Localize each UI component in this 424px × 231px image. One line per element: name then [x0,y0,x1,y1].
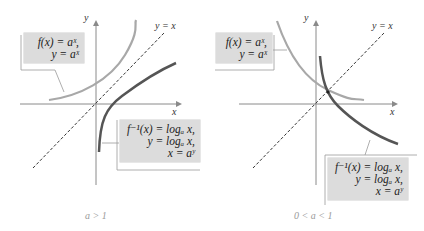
x-axis-label: x [172,106,176,117]
log-box-line-2: y = logₐ x, [333,173,403,185]
log-box-line-2: y = logₐ x, [125,135,195,147]
identity-line [253,33,384,168]
caption-a-greater-than-1: a > 1 [85,210,107,221]
exp-box-line-2: y = aˣ [221,48,267,60]
log-function-box: f⁻¹(x) = logₐ x, y = logₐ x, x = aʸ [120,120,200,162]
log-leader-line [365,140,370,155]
y-axis-label: y [84,12,88,23]
exp-box-line-1: f(x) = aˣ, [221,36,267,48]
exp-function-box: f(x) = aˣ, y = aˣ [24,33,84,63]
intersection-point [326,90,329,93]
log-box-line-1: f⁻¹(x) = logₐ x, [333,161,403,173]
y-axis-arrow-icon [313,20,319,26]
log-box-line-3: x = aʸ [333,185,403,197]
x-axis-arrow-icon [176,101,182,107]
y-axis-arrow-icon [93,20,99,26]
identity-line-label: y = x [155,20,176,31]
log-box-line-1: f⁻¹(x) = logₐ x, [125,123,195,135]
exp-box-line-1: f(x) = aˣ, [29,36,79,48]
y-axis-label: y [304,12,308,23]
x-axis-label: x [390,106,394,117]
log-function-box: f⁻¹(x) = logₐ x, y = logₐ x, x = aʸ [328,158,408,200]
log-box-line-3: x = aʸ [125,147,195,159]
panel-a-greater-than-1: y x y = x f(x) = aˣ, y = aˣ f⁻¹(x) = log… [0,0,212,231]
exp-function-box: f(x) = aˣ, y = aˣ [216,33,272,63]
exp-box-line-2: y = aˣ [29,48,79,60]
identity-line-label: y = x [372,20,393,31]
panel-a-between-0-and-1: y x y = x f(x) = aˣ, y = aˣ f⁻¹(x) = log… [212,0,424,231]
caption-a-between-0-and-1: 0 < a < 1 [294,210,333,221]
